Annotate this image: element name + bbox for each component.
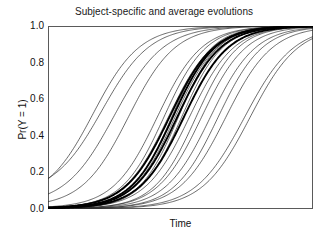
curve-subject-16 — [48, 28, 313, 208]
y-axis-label: Pr(Y = 1) — [17, 80, 28, 160]
axes-group — [48, 27, 313, 210]
y-tick-label: 0.0 — [30, 204, 44, 214]
plot-area — [48, 26, 313, 209]
y-tick-label: 0.2 — [30, 167, 44, 177]
chart-figure: Subject-specific and average evolutions … — [0, 0, 328, 236]
chart-svg — [48, 26, 313, 209]
chart-title: Subject-specific and average evolutions — [0, 6, 328, 17]
y-axis-label-wrapper: Pr(Y = 1) — [10, 20, 24, 210]
y-tick-label: 1.0 — [30, 21, 44, 31]
x-axis-label: Time — [48, 218, 313, 229]
curve-subject-4 — [48, 26, 313, 202]
y-tick-label: 0.8 — [30, 58, 44, 68]
curve-subject-15 — [48, 28, 313, 209]
curve-subject-14 — [48, 27, 313, 208]
curve-subject-5 — [48, 26, 313, 207]
y-tick-label: 0.4 — [30, 131, 44, 141]
y-tick-label: 0.6 — [30, 94, 44, 104]
curve-subject-13 — [48, 27, 313, 209]
curves-group — [48, 26, 313, 209]
